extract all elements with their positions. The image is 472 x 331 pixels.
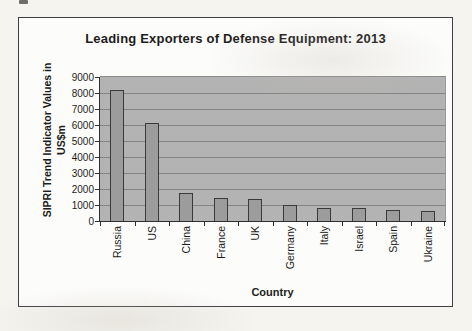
x-tick-label: Israel	[354, 226, 365, 252]
y-tick-label: 0	[54, 217, 94, 227]
bar-us	[145, 123, 159, 221]
chart-title: Leading Exporters of Defense Equipment: …	[19, 31, 452, 46]
bar-france	[214, 198, 228, 221]
y-axis-tick	[95, 109, 99, 110]
y-axis-line	[99, 77, 100, 222]
y-tick-label: 6000	[54, 121, 94, 131]
y-tick-label: 2000	[54, 185, 94, 195]
y-tick-label: 4000	[54, 153, 94, 163]
x-tick-label: Germany	[285, 226, 296, 269]
y-axis-tick	[95, 157, 99, 158]
plot-area: 9000800070006000500040003000200010000	[100, 76, 446, 221]
gridline	[100, 93, 445, 94]
bar-uk	[248, 199, 262, 221]
y-axis-tick	[95, 221, 99, 222]
x-axis-title: Country	[100, 286, 445, 298]
y-axis-title-line1: SIPRI Trend Indicator Values in	[41, 63, 55, 218]
y-tick-label: 9000	[54, 73, 94, 83]
bar-italy	[317, 208, 331, 221]
y-tick-label: 7000	[54, 105, 94, 115]
scan-artifact-mark	[19, 0, 28, 4]
chart-frame: Leading Exporters of Defense Equipment: …	[18, 17, 453, 307]
x-tick-label: Ukraine	[423, 226, 434, 262]
y-tick-label: 3000	[54, 169, 94, 179]
bar-russia	[110, 90, 124, 221]
y-axis-tick	[95, 125, 99, 126]
x-tick-label: US	[147, 226, 158, 241]
bar-germany	[283, 205, 297, 221]
bar-spain	[386, 210, 400, 221]
y-axis-tick	[95, 173, 99, 174]
bar-israel	[352, 208, 366, 221]
gridline	[100, 109, 445, 110]
x-tick-label: Spain	[388, 226, 399, 253]
y-tick-label: 1000	[54, 201, 94, 211]
x-tick-label: Italy	[319, 226, 330, 245]
x-tick-label: Russia	[112, 226, 123, 258]
y-tick-label: 8000	[54, 89, 94, 99]
y-axis-tick	[95, 189, 99, 190]
x-tick-label: UK	[250, 226, 261, 241]
y-axis-tick	[95, 77, 99, 78]
bar-ukraine	[421, 211, 435, 221]
bar-china	[179, 193, 193, 221]
y-axis-tick	[95, 141, 99, 142]
x-tick-label: China	[181, 226, 192, 253]
y-tick-label: 5000	[54, 137, 94, 147]
y-axis-tick	[95, 205, 99, 206]
y-axis-tick	[95, 93, 99, 94]
x-tick-label: France	[216, 226, 227, 259]
